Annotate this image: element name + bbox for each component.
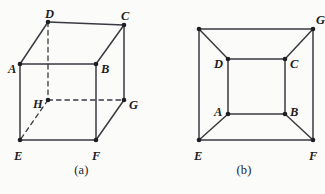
edge-GC xyxy=(285,29,313,59)
figure-page: DCABHGEF (a) GDCABEF (b) xyxy=(0,0,325,194)
vertex-label-G: G xyxy=(316,13,325,27)
vertex-label-G: G xyxy=(129,98,138,112)
vertex-label-A: A xyxy=(7,62,16,76)
vertex-label-B: B xyxy=(100,62,109,76)
edge-DC xyxy=(48,22,124,25)
vertex-dot-E xyxy=(18,138,23,143)
edge-HD xyxy=(199,29,228,59)
vertex-label-F: F xyxy=(91,149,101,163)
edge-DA xyxy=(20,22,48,64)
vertex-label-B: B xyxy=(289,105,298,119)
vertex-label-E: E xyxy=(13,149,22,163)
vertex-dot-C xyxy=(122,23,127,28)
figure-panel-b: GDCABEF (b) xyxy=(163,0,325,194)
cube-planar-diagram: GDCABEF xyxy=(163,0,325,165)
vertex-dot-B xyxy=(283,112,288,117)
figure-b-caption: (b) xyxy=(163,163,325,178)
figure-panel-a: DCABHGEF (a) xyxy=(0,0,163,194)
vertex-dot-G xyxy=(311,27,316,32)
vertex-dot-H xyxy=(46,98,51,103)
vertex-label-C: C xyxy=(121,9,130,23)
cube-oblique-diagram: DCABHGEF xyxy=(0,0,163,165)
vertex-dot-A xyxy=(226,112,231,117)
vertex-dot-B xyxy=(94,62,99,67)
edge-FG xyxy=(96,100,124,140)
vertex-label-D: D xyxy=(44,7,54,21)
vertex-label-E: E xyxy=(193,149,202,163)
vertex-dot-D xyxy=(226,57,231,62)
figure-a-caption: (a) xyxy=(0,163,163,178)
vertex-label-D: D xyxy=(213,57,223,71)
vertex-label-A: A xyxy=(213,105,222,119)
vertex-dot-G xyxy=(122,98,127,103)
vertex-label-F: F xyxy=(308,149,318,163)
vertex-dot-C xyxy=(283,57,288,62)
vertex-dot-E xyxy=(197,138,202,143)
vertex-label-H: H xyxy=(32,97,44,111)
vertex-label-C: C xyxy=(290,57,299,71)
vertex-dot-F xyxy=(94,138,99,143)
vertex-dot-F xyxy=(311,138,316,143)
vertex-dot-H xyxy=(197,27,202,32)
edge-CB xyxy=(96,25,124,64)
vertex-dot-A xyxy=(18,62,23,67)
